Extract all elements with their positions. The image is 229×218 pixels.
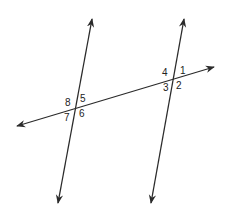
angle-label-8: 8 xyxy=(65,97,71,108)
right-parallel-line xyxy=(151,19,184,203)
parallel-lines-diagram: 4 1 3 2 8 5 7 6 xyxy=(0,0,229,218)
angle-label-7: 7 xyxy=(64,112,70,123)
angle-label-5: 5 xyxy=(80,93,86,104)
angle-label-3: 3 xyxy=(163,82,169,93)
angle-label-1: 1 xyxy=(180,65,186,76)
angle-label-6: 6 xyxy=(79,108,85,119)
angle-label-4: 4 xyxy=(162,67,168,78)
left-parallel-line xyxy=(58,19,92,203)
angle-label-2: 2 xyxy=(176,80,182,91)
